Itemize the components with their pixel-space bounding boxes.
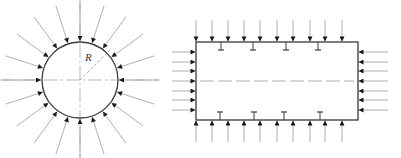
rectangular-section-figure	[172, 20, 388, 142]
stiffeners	[217, 42, 323, 120]
pressure-arrow	[117, 92, 154, 104]
pressure-arrow	[112, 34, 144, 57]
pressure-arrow	[56, 117, 68, 154]
pressure-vessel-diagram: R	[0, 0, 401, 158]
pressure-arrow	[103, 17, 126, 49]
pressure-arrow	[34, 17, 57, 49]
pressure-arrow	[117, 56, 154, 68]
pressure-arrow	[34, 112, 57, 144]
pressure-arrow	[56, 6, 68, 43]
pressure-arrow	[6, 92, 43, 104]
pressure-arrow	[6, 56, 43, 68]
pressure-arrow	[17, 34, 49, 57]
pressure-arrow	[103, 112, 126, 144]
radius-label: R	[84, 51, 92, 63]
pressure-arrow	[92, 6, 104, 43]
pressure-arrow	[17, 103, 49, 126]
circular-section-figure: R	[0, 0, 160, 158]
pressure-arrow	[112, 103, 144, 126]
pressure-arrow	[92, 117, 104, 154]
